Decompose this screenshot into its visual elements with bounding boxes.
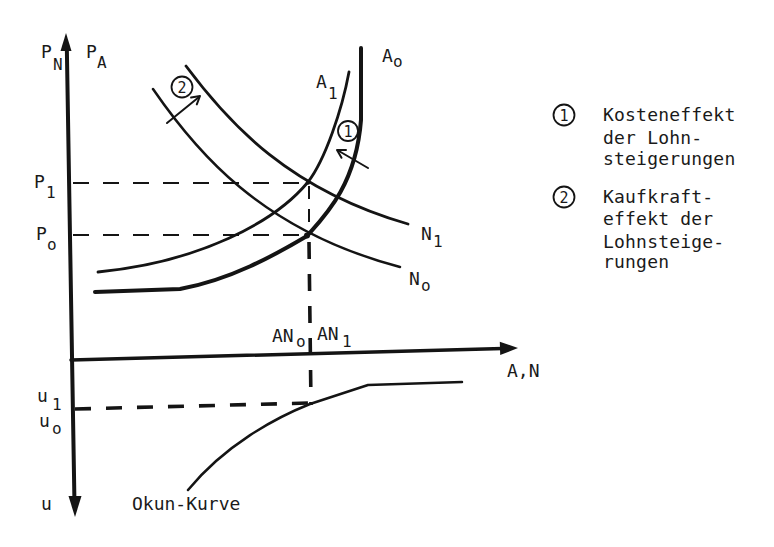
label-n1-sub: 1 <box>433 232 443 251</box>
horizontal-axis <box>71 342 518 360</box>
y-label-pa-main: P <box>86 41 97 62</box>
diagram-canvas: 1 2 P N P A u A,N P 1 P o u 1 u o AN o <box>0 0 774 547</box>
okun-curve <box>188 382 462 490</box>
label-a0: A o <box>382 45 403 71</box>
legend-text-line: Kosteneffekt <box>603 104 735 125</box>
legend-text-line: effekt der <box>603 208 713 229</box>
label-u0-main: u <box>39 410 50 431</box>
marker-2-number: 2 <box>177 79 186 97</box>
label-p1: P 1 <box>34 171 56 202</box>
economic-diagram: 1 2 P N P A u A,N P 1 P o u 1 u o AN o <box>0 0 774 547</box>
y-label-pn: P N <box>41 41 63 74</box>
label-a1-sub: 1 <box>328 84 338 103</box>
label-a1-main: A <box>316 71 327 92</box>
label-p1-sub: 1 <box>46 183 56 202</box>
legend-marker-1: 1 <box>559 107 568 125</box>
an-guide-lower <box>309 242 311 405</box>
axis-arrow-down-icon <box>69 496 82 517</box>
legend-text-line: Kaufkraft- <box>603 186 713 207</box>
label-u1-sub: 1 <box>52 395 62 414</box>
vertical-axis <box>61 33 82 517</box>
curve-n1 <box>186 66 408 224</box>
label-u0: u o <box>39 410 62 438</box>
legend-text-line: rungen <box>603 251 669 272</box>
label-u0-sub: o <box>52 419 62 438</box>
okun-curve-label: Okun-Kurve <box>132 493 240 514</box>
label-p0-main: P <box>36 223 47 244</box>
label-n1: N 1 <box>421 223 443 251</box>
y-label-pa: P A <box>86 41 107 72</box>
label-p1-main: P <box>34 171 45 192</box>
equilibrium-point-p1 <box>306 180 310 184</box>
y-label-pn-main: P <box>41 41 52 62</box>
axis-arrow-up-icon <box>61 33 72 51</box>
label-an1-main: AN <box>317 323 339 344</box>
label-a0-sub: o <box>393 52 403 71</box>
u1-guide <box>75 403 310 409</box>
legend-text-line: steigerungen <box>603 148 735 169</box>
marker-1-number: 1 <box>343 123 352 141</box>
label-an1: AN 1 <box>317 323 352 351</box>
y-label-u: u <box>41 493 52 514</box>
legend-item-purchasing-power-effect: 2 Kaufkraft- effekt der Lohnsteige- rung… <box>554 186 725 272</box>
legend-item-cost-effect: 1 Kosteneffekt der Lohn- steigerungen <box>554 104 736 169</box>
y-label-pn-sub: N <box>53 55 63 74</box>
purchasing-power-arrow-icon <box>167 97 199 123</box>
label-an0: AN o <box>272 325 306 351</box>
label-a1: A 1 <box>316 71 338 103</box>
label-an1-sub: 1 <box>342 332 352 351</box>
legend-text-line: der Lohn- <box>603 127 702 148</box>
legend: 1 Kosteneffekt der Lohn- steigerungen 2 … <box>554 104 736 272</box>
label-p0-sub: o <box>47 235 57 254</box>
label-u1-main: u <box>37 385 48 406</box>
label-n1-main: N <box>421 223 432 244</box>
legend-text-line: Lohnsteige- <box>603 231 724 252</box>
label-n0: N o <box>409 268 431 295</box>
label-an0-sub: o <box>296 332 306 351</box>
x-label-an: A,N <box>507 360 540 381</box>
axis-arrow-right-icon <box>500 342 518 355</box>
label-n0-main: N <box>409 268 420 289</box>
guide-lines <box>73 183 311 409</box>
label-an0-main: AN <box>272 325 294 346</box>
legend-marker-2: 2 <box>559 189 568 207</box>
label-a0-main: A <box>382 45 393 66</box>
equilibrium-point-p0 <box>304 233 310 239</box>
label-n0-sub: o <box>421 276 431 295</box>
label-p0: P o <box>36 223 57 254</box>
y-label-pa-sub: A <box>97 53 107 72</box>
